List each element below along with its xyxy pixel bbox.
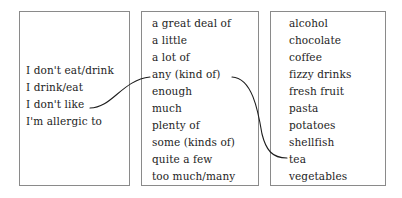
list-item: fresh fruit [289,83,351,100]
phrases-list: I don't eat/drink I drink/eat I don't li… [26,62,114,130]
list-item: too much/many [152,168,235,185]
list-item: fizzy drinks [289,66,351,83]
list-item: a lot of [152,49,235,66]
list-item: plenty of [152,117,235,134]
list-item: alcohol [289,15,351,32]
list-item: quite a few [152,151,235,168]
list-item: chocolate [289,32,351,49]
list-item: enough [152,83,235,100]
list-item: potatoes [289,117,351,134]
list-item: vegetables [289,168,351,185]
list-item: I don't like [26,96,114,113]
list-item: shellfish [289,134,351,151]
list-item: tea [289,151,351,168]
list-item: much [152,100,235,117]
list-item: I drink/eat [26,79,114,96]
list-item: any (kind of) [152,66,235,83]
substitution-table-diagram: I don't eat/drink I drink/eat I don't li… [0,0,402,198]
list-item: I'm allergic to [26,113,114,130]
list-item: coffee [289,49,351,66]
foods-list: alcohol chocolate coffee fizzy drinks fr… [289,15,351,185]
list-item: a little [152,32,235,49]
list-item: pasta [289,100,351,117]
list-item: some (kinds of) [152,134,235,151]
list-item: a great deal of [152,15,235,32]
quantifiers-list: a great deal of a little a lot of any (k… [152,15,235,185]
list-item: I don't eat/drink [26,62,114,79]
